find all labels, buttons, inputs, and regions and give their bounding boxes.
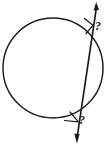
arrow-head-down-icon (74, 134, 79, 144)
tick-upper-b (86, 26, 93, 34)
tick-lower-a (65, 121, 79, 122)
tick-upper-a (85, 19, 94, 26)
figure-canvas: ? ? (0, 0, 111, 145)
question-mark-label-top: ? (95, 20, 101, 32)
arrow-head-up-icon (94, 2, 99, 10)
question-mark-label-bottom: ? (79, 114, 85, 126)
